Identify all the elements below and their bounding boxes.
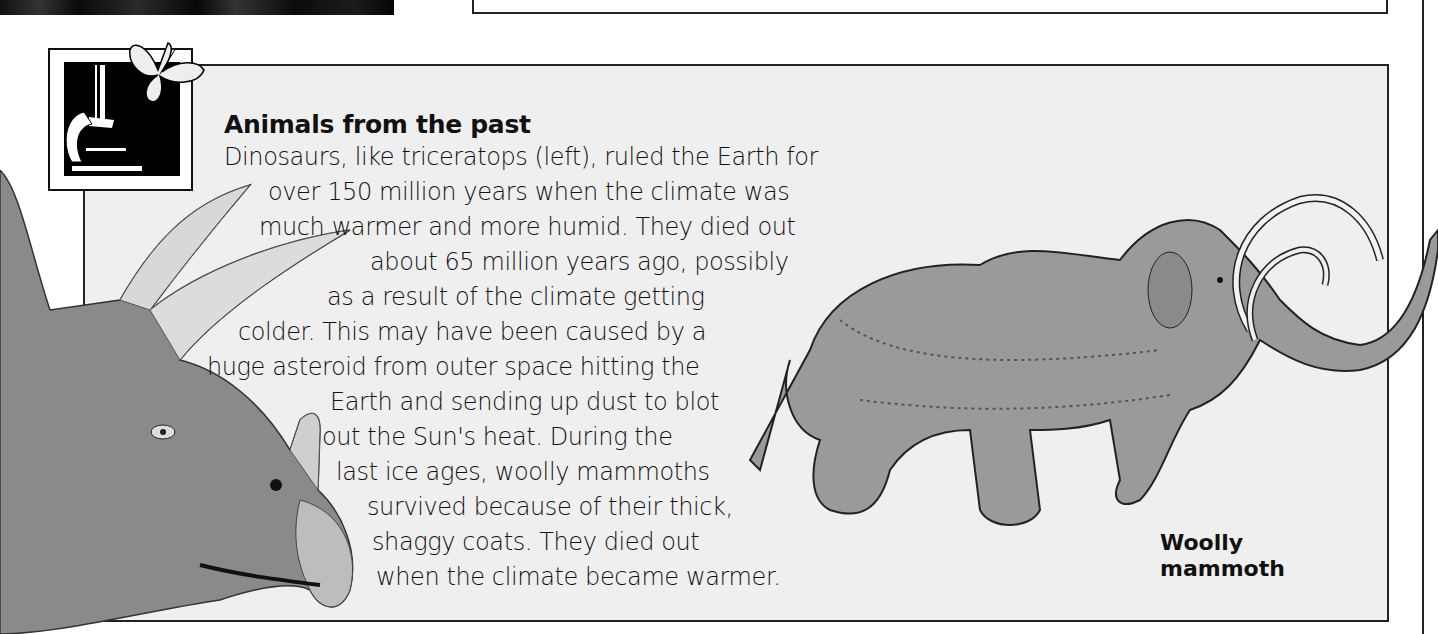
body-line: Earth and sending up dust to blot: [330, 388, 719, 416]
caption-line: mammoth: [1160, 556, 1285, 582]
body-line: as a result of the climate getting: [327, 283, 705, 311]
section-title: Animals from the past: [224, 110, 531, 139]
body-line: much warmer and more humid. They died ou…: [259, 213, 796, 241]
body-line: shaggy coats. They died out: [372, 528, 699, 556]
body-line: out the Sun's heat. During the: [322, 423, 673, 451]
body-line: huge asteroid from outer space hitting t…: [207, 353, 699, 381]
body-line: about 65 million years ago, possibly: [370, 248, 789, 276]
top-caption-box: [472, 0, 1388, 14]
body-line: colder. This may have been caused by a: [238, 318, 706, 346]
woolly-mammoth-illustration: [740, 180, 1438, 560]
caption-line: Woolly: [1160, 530, 1285, 556]
body-line: over 150 million years when the climate …: [268, 178, 789, 206]
mammoth-caption: Woolly mammoth: [1160, 530, 1285, 582]
top-photo-strip: [0, 0, 394, 15]
body-line: Dinosaurs, like triceratops (left), rule…: [224, 143, 818, 171]
body-line: when the climate became warmer.: [376, 563, 780, 591]
body-line: survived because of their thick,: [367, 493, 733, 521]
microscope-butterfly-icon: [48, 48, 193, 191]
body-line: last ice ages, woolly mammoths: [336, 458, 710, 486]
